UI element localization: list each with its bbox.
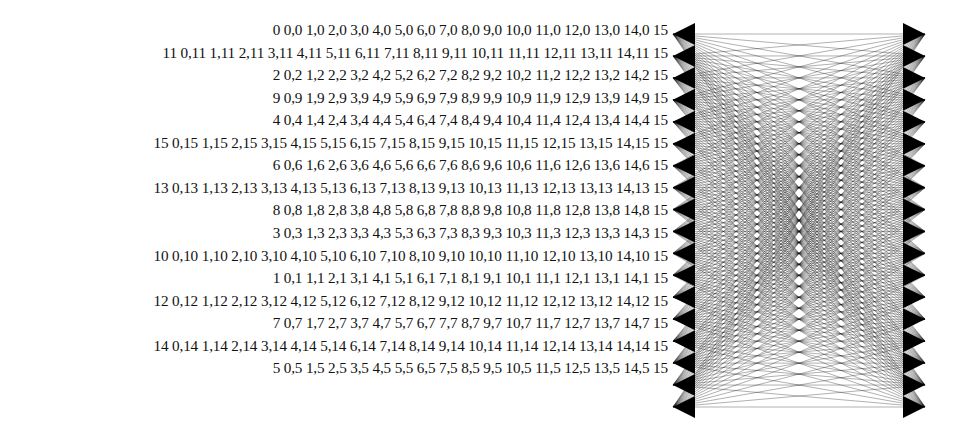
label-row: 12 0,12 1,12 2,12 3,12 4,12 5,12 6,12 7,… — [0, 293, 668, 308]
graph-label-canvas: 0 0,0 1,0 2,0 3,0 4,0 5,0 6,0 7,0 8,0 9,… — [0, 0, 971, 432]
node-pair-label-list: 0 0,0 1,0 2,0 3,0 4,0 5,0 6,0 7,0 8,0 9,… — [0, 12, 668, 420]
label-row: 15 0,15 1,15 2,15 3,15 4,15 5,15 6,15 7,… — [0, 135, 668, 150]
label-row: 5 0,5 1,5 2,5 3,5 4,5 5,5 6,5 7,5 8,5 9,… — [0, 360, 668, 375]
label-row: 2 0,2 1,2 2,2 3,2 4,2 5,2 6,2 7,2 8,2 9,… — [0, 67, 668, 82]
label-row: 9 0,9 1,9 2,9 3,9 4,9 5,9 6,9 7,9 8,9 9,… — [0, 90, 668, 105]
edge-group — [673, 34, 925, 407]
label-row: 3 0,3 1,3 2,3 3,3 4,3 5,3 6,3 7,3 8,3 9,… — [0, 225, 668, 240]
graph-edges-svg — [665, 0, 971, 432]
label-row: 11 0,11 1,11 2,11 3,11 4,11 5,11 6,11 7,… — [0, 45, 668, 60]
label-row: 0 0,0 1,0 2,0 3,0 4,0 5,0 6,0 7,0 8,0 9,… — [0, 22, 668, 37]
bipartite-graph-drawing — [665, 0, 971, 432]
label-row: 14 0,14 1,14 2,14 3,14 4,14 5,14 6,14 7,… — [0, 338, 668, 353]
label-row: 7 0,7 1,7 2,7 3,7 4,7 5,7 6,7 7,7 8,7 9,… — [0, 315, 668, 330]
label-row: 4 0,4 1,4 2,4 3,4 4,4 5,4 6,4 7,4 8,4 9,… — [0, 112, 668, 127]
label-row: 13 0,13 1,13 2,13 3,13 4,13 5,13 6,13 7,… — [0, 180, 668, 195]
label-row: 10 0,10 1,10 2,10 3,10 4,10 5,10 6,10 7,… — [0, 248, 668, 263]
label-row: 8 0,8 1,8 2,8 3,8 4,8 5,8 6,8 7,8 8,8 9,… — [0, 202, 668, 217]
label-row: 6 0,6 1,6 2,6 3,6 4,6 5,6 6,6 7,6 8,6 9,… — [0, 157, 668, 172]
label-row: 1 0,1 1,1 2,1 3,1 4,1 5,1 6,1 7,1 8,1 9,… — [0, 270, 668, 285]
